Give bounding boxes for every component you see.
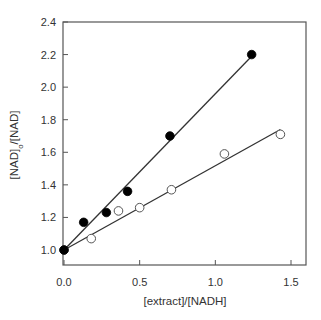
fit-lines <box>64 56 280 250</box>
y-tick-label: 2.0 <box>41 81 56 93</box>
plot-frame <box>63 22 306 265</box>
x-tick-label: 0.0 <box>56 276 71 288</box>
x-axis-ticks: 0.00.51.01.5 <box>56 260 298 288</box>
y-tick-label: 1.4 <box>41 179 56 191</box>
y-tick-label: 1.6 <box>41 146 56 158</box>
filled-circle-marker <box>102 208 111 217</box>
y-axis-label-pre: [NAD] <box>8 149 20 180</box>
filled-circle-marker <box>166 132 175 141</box>
data-points <box>60 50 285 254</box>
open-circle-marker <box>135 203 144 212</box>
y-tick-label: 2.4 <box>41 16 56 28</box>
x-tick-label: 0.5 <box>132 276 147 288</box>
y-tick-label: 1.2 <box>41 211 56 223</box>
filled-circle-marker <box>60 246 69 255</box>
y-axis-ticks: 1.01.21.41.61.82.02.22.4 <box>41 16 68 256</box>
chart: 1.01.21.41.61.82.02.22.4 0.00.51.01.5 [e… <box>0 0 321 320</box>
y-axis-label: [NAD]o/[NAD] <box>8 111 25 180</box>
y-tick-label: 2.2 <box>41 49 56 61</box>
y-axis-label-post: /[NAD] <box>8 111 20 145</box>
open-circle-marker <box>87 234 96 243</box>
x-tick-label: 1.5 <box>283 276 298 288</box>
x-axis-label: [extract]/[NADH] <box>143 295 226 307</box>
open-circle-marker <box>167 185 176 194</box>
open-circle-marker <box>276 130 285 139</box>
plot-border <box>63 22 306 265</box>
filled-circle-marker <box>123 187 132 196</box>
open-circle-marker <box>114 207 123 216</box>
y-tick-label: 1.8 <box>41 114 56 126</box>
y-tick-label: 1.0 <box>41 244 56 256</box>
filled-circle-marker <box>247 50 256 59</box>
x-tick-label: 1.0 <box>208 276 223 288</box>
filled-circle-marker <box>79 218 88 227</box>
open-circle-marker <box>220 150 229 159</box>
